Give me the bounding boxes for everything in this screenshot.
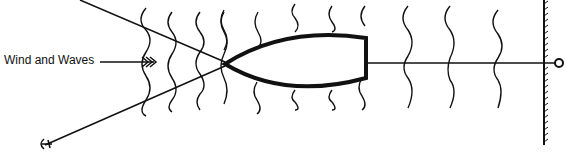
- ring-bollard-icon: [555, 59, 563, 67]
- mooring-diagram: Wind and Waves: [0, 0, 575, 164]
- boat-hull: [225, 35, 366, 86]
- wind-arrow-icon: [100, 57, 156, 67]
- upper-line: [80, 0, 225, 62]
- diagram-canvas: [0, 0, 575, 164]
- wind-and-waves-label: Wind and Waves: [4, 53, 94, 67]
- waves: [141, 4, 502, 116]
- anchor-icon: [41, 139, 52, 149]
